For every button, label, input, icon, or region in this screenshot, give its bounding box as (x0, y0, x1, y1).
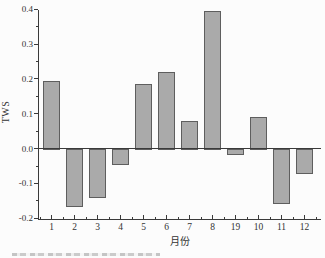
x-tick-label: 4 (110, 222, 132, 233)
x-tick-label: 19 (225, 222, 247, 233)
x-tick-label: 6 (156, 222, 178, 233)
x-axis-title: 月份 (150, 236, 210, 248)
y-major-tick (34, 44, 38, 45)
x-tick-label: 12 (294, 222, 316, 233)
x-major-tick (120, 215, 121, 219)
bar-chart-figure: TWS 月份 0.40.30.20.10.0-0.1-0.21234567819… (0, 0, 325, 258)
x-major-tick (235, 215, 236, 219)
bar-month-1 (43, 81, 60, 150)
y-minor-tick (36, 166, 39, 167)
x-major-tick (281, 215, 282, 219)
y-tick-label: 0.2 (0, 74, 33, 84)
y-minor-tick (36, 96, 39, 97)
zero-line (38, 148, 321, 149)
x-minor-tick (40, 217, 41, 219)
x-minor-tick (316, 217, 317, 219)
y-tick-label: 0.3 (0, 39, 33, 49)
x-minor-tick (247, 217, 248, 219)
x-major-tick (51, 215, 52, 219)
y-minor-tick (36, 200, 39, 201)
x-tick-label: 3 (87, 222, 109, 233)
x-tick-label: 10 (248, 222, 270, 233)
x-tick-label: 11 (271, 222, 293, 233)
x-major-tick (212, 215, 213, 219)
x-minor-tick (63, 217, 64, 219)
y-major-tick (34, 183, 38, 184)
x-major-tick (74, 215, 75, 219)
x-minor-tick (178, 217, 179, 219)
x-minor-tick (293, 217, 294, 219)
y-tick-label: 0.4 (0, 4, 33, 14)
bar-month-12 (296, 149, 313, 174)
bar-month-19 (227, 149, 244, 155)
x-minor-tick (224, 217, 225, 219)
x-minor-tick (132, 217, 133, 219)
bar-month-6 (158, 72, 175, 150)
y-major-tick (34, 9, 38, 10)
y-major-tick (34, 218, 38, 219)
bar-month-10 (250, 117, 267, 149)
bar-month-2 (66, 149, 83, 207)
x-major-tick (304, 215, 305, 219)
y-major-tick (34, 148, 38, 149)
bar-month-8 (204, 11, 221, 150)
y-tick-label: 0.1 (0, 109, 33, 119)
x-minor-tick (86, 217, 87, 219)
x-major-tick (97, 215, 98, 219)
x-major-tick (258, 215, 259, 219)
x-tick-label: 8 (202, 222, 224, 233)
y-minor-tick (36, 131, 39, 132)
x-tick-label: 1 (41, 222, 63, 233)
y-tick-label: 0.0 (0, 144, 33, 154)
x-minor-tick (155, 217, 156, 219)
x-axis-line (38, 219, 321, 221)
x-major-tick (189, 215, 190, 219)
y-major-tick (34, 78, 38, 79)
x-major-tick (166, 215, 167, 219)
y-major-tick (34, 113, 38, 114)
bar-month-3 (89, 149, 106, 199)
bar-month-11 (273, 149, 290, 204)
x-tick-label: 5 (133, 222, 155, 233)
x-minor-tick (270, 217, 271, 219)
bar-month-7 (181, 121, 198, 150)
bar-month-4 (112, 149, 129, 166)
y-axis-line (38, 10, 39, 221)
cropped-caption-remnant (12, 253, 160, 256)
y-tick-label: -0.2 (0, 213, 33, 223)
x-minor-tick (109, 217, 110, 219)
x-tick-label: 7 (179, 222, 201, 233)
x-minor-tick (201, 217, 202, 219)
x-tick-label: 2 (64, 222, 86, 233)
y-tick-label: -0.1 (0, 178, 33, 188)
y-minor-tick (36, 61, 39, 62)
y-minor-tick (36, 26, 39, 27)
bar-month-5 (135, 84, 152, 149)
x-major-tick (143, 215, 144, 219)
